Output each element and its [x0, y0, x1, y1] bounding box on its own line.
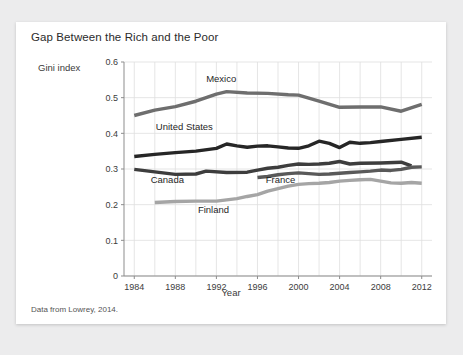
y-tick-label: 0 [113, 271, 118, 281]
line-chart-plot: 00.10.20.30.40.50.6 19841988199219962000… [16, 22, 446, 324]
y-tick-label: 0.2 [105, 200, 118, 210]
x-tick-label: 2000 [289, 282, 309, 292]
y-tick-label: 0.6 [105, 57, 118, 67]
y-tick-label: 0.4 [105, 129, 118, 139]
series-label-mexico: Mexico [206, 73, 236, 84]
x-tick-labels: 19841988199219962000200420082012 [124, 282, 431, 292]
figure-card: Gap Between the Rich and the Poor Gini i… [16, 22, 446, 324]
series-label-united-states: United States [156, 121, 213, 132]
y-tick-label: 0.1 [105, 236, 118, 246]
series-label-canada: Canada [151, 174, 185, 185]
x-tick-label: 1992 [206, 282, 226, 292]
x-tick-label: 2012 [412, 282, 432, 292]
x-tick-label: 1988 [165, 282, 185, 292]
y-tick-label: 0.5 [105, 93, 118, 103]
series-label-finland: Finland [198, 204, 229, 215]
x-tick-label: 2004 [330, 282, 350, 292]
x-tick-label: 1996 [247, 282, 267, 292]
x-tick-label: 2008 [371, 282, 391, 292]
y-tick-label: 0.3 [105, 164, 118, 174]
series-label-france: France [266, 174, 296, 185]
x-tick-label: 1984 [124, 282, 144, 292]
y-tick-labels: 00.10.20.30.40.50.6 [105, 57, 118, 281]
